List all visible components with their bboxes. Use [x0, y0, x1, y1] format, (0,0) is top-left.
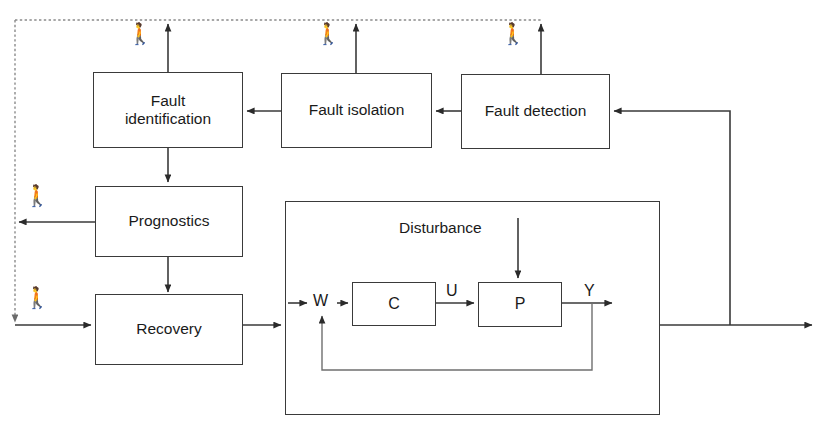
- label-signal-y: Y: [584, 282, 595, 300]
- block-fault-detection[interactable]: Fault detection: [461, 74, 610, 149]
- fault-identification-line-1: Fault: [125, 92, 211, 110]
- block-recovery[interactable]: Recovery: [95, 294, 243, 365]
- block-controller-label: C: [388, 295, 400, 314]
- operator-fault-detection-icon: 🚶: [500, 24, 526, 45]
- fault-identification-line-2: identification: [125, 110, 211, 128]
- block-prognostics-label: Prognostics: [129, 212, 210, 230]
- operator-fault-isolation-icon: 🚶: [315, 24, 341, 45]
- block-diagram-canvas: Fault identification Fault isolation Fau…: [0, 0, 823, 435]
- operator-fault-identification-icon: 🚶: [127, 24, 153, 45]
- operator-recovery-icon: 🚶: [24, 288, 50, 309]
- block-fault-identification-label: Fault identification: [125, 92, 211, 129]
- label-signal-w: W: [313, 292, 328, 310]
- block-prognostics[interactable]: Prognostics: [95, 186, 243, 257]
- block-fault-isolation[interactable]: Fault isolation: [281, 73, 432, 148]
- block-fault-detection-label: Fault detection: [485, 102, 587, 120]
- block-controller[interactable]: C: [352, 282, 436, 326]
- label-disturbance: Disturbance: [399, 219, 482, 237]
- block-plant-label: P: [515, 295, 526, 314]
- block-fault-identification[interactable]: Fault identification: [93, 72, 243, 148]
- label-signal-u: U: [446, 282, 458, 300]
- block-fault-isolation-label: Fault isolation: [309, 101, 405, 119]
- operator-prognostics-icon: 🚶: [24, 186, 50, 207]
- block-recovery-label: Recovery: [136, 320, 201, 338]
- block-plant[interactable]: P: [478, 282, 562, 327]
